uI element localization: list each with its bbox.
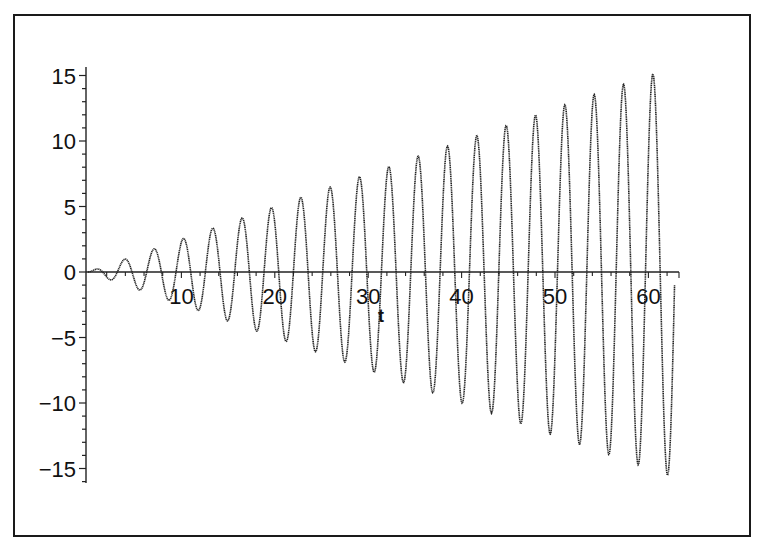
y-tick-label: 15: [52, 64, 76, 89]
line-chart: 151050−5−10−15 102030405060 t: [0, 0, 757, 547]
y-tick-label: 5: [64, 195, 76, 220]
y-tick-label: 0: [64, 260, 76, 285]
x-tick-label: 20: [263, 284, 287, 309]
x-tick-label: 40: [449, 284, 473, 309]
x-tick-label: 60: [636, 284, 660, 309]
x-tick-label: 50: [543, 284, 567, 309]
y-tick-label: −15: [39, 457, 76, 482]
y-axis: 151050−5−10−15: [39, 64, 86, 484]
y-tick-label: −5: [51, 326, 76, 351]
data-series-curve: [88, 74, 675, 475]
y-tick-label: −10: [39, 391, 76, 416]
x-axis-label: t: [378, 306, 384, 326]
y-tick-label: 10: [52, 129, 76, 154]
